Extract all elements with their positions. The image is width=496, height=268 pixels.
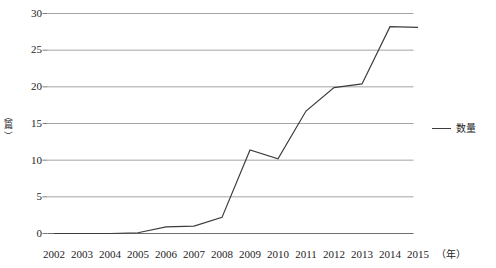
x-tick-label-2004: 2004 (96, 248, 124, 260)
x-tick-label-2007: 2007 (180, 248, 208, 260)
line-chart: （ 篇 ） 30 25 20 15 10 5 0 2002 2003 2004 … (0, 0, 496, 268)
x-tick-label-2003: 2003 (68, 248, 96, 260)
y-tick-marks (43, 14, 48, 234)
x-tick-label-2011: 2011 (292, 248, 320, 260)
gridlines (48, 14, 414, 234)
chart-legend: 数量 (432, 123, 476, 134)
x-axis-unit-label: （年） (436, 249, 466, 261)
legend-line-swatch (432, 128, 451, 129)
x-tick-label-2005: 2005 (124, 248, 152, 260)
x-tick-label-2015: 2015 (404, 248, 432, 260)
x-tick-label-2009: 2009 (236, 248, 264, 260)
x-tick-label-2010: 2010 (264, 248, 292, 260)
data-series-line-quantity (54, 27, 418, 234)
x-tick-label-2002: 2002 (40, 248, 68, 260)
x-tick-label-2014: 2014 (376, 248, 404, 260)
x-tick-label-2013: 2013 (348, 248, 376, 260)
x-tick-label-2006: 2006 (152, 248, 180, 260)
plot-area (0, 0, 496, 268)
legend-label-quantity: 数量 (456, 123, 476, 134)
x-tick-label-2008: 2008 (208, 248, 236, 260)
x-tick-label-2012: 2012 (320, 248, 348, 260)
